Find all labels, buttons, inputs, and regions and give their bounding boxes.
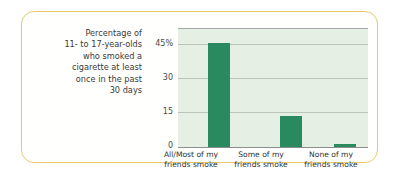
figure-card: Percentage of 11- to 17-year-olds who sm… [21,11,378,163]
x-axis-label-line: friends smoke [294,160,368,170]
caption-line: Percentage of [32,28,142,39]
x-axis-category-label: Some of my friends smoke [224,150,298,170]
chart-caption: Percentage of 11- to 17-year-olds who sm… [32,28,142,96]
x-axis-label-line: Some of my [224,150,298,160]
x-axis-label-line: friends smoke [224,160,298,170]
x-axis-line [178,147,368,149]
caption-line: once in the past [32,74,142,85]
caption-line: who smoked a [32,51,142,62]
gridline-15 [178,112,368,113]
caption-line: 30 days [32,85,142,96]
y-axis-tick-label: 15 [133,107,173,116]
gridline-45 [178,44,368,45]
bar-all-most-of-my-friends-smoke [208,43,230,146]
bar-some-of-my-friends-smoke [280,116,302,147]
caption-line: cigarette at least [32,62,142,73]
gridline-30 [178,78,368,79]
y-axis-tick-label: 45% [133,39,173,48]
x-axis-label-line: None of my [294,150,368,160]
x-axis-labels: All/Most of my friends smoke Some of my … [148,150,369,177]
x-axis-label-line: friends smoke [154,160,228,170]
chart-plot-wrapper: 45% 30 15 0 [148,27,369,149]
x-axis-label-line: All/Most of my [154,150,228,160]
plot-area [178,28,368,148]
y-axis-tick-label: 0 [133,141,173,150]
caption-line: 11- to 17-year-olds [32,39,142,50]
y-axis-tick-label: 30 [133,73,173,82]
x-axis-category-label: All/Most of my friends smoke [154,150,228,170]
x-axis-category-label: None of my friends smoke [294,150,368,170]
